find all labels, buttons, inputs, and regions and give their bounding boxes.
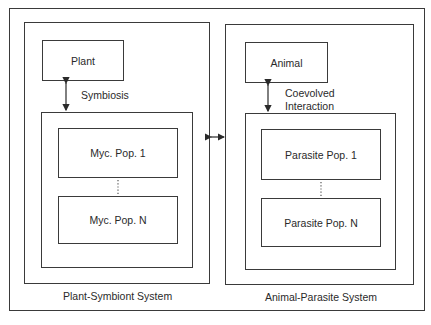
connector-arrows: [0, 0, 431, 325]
